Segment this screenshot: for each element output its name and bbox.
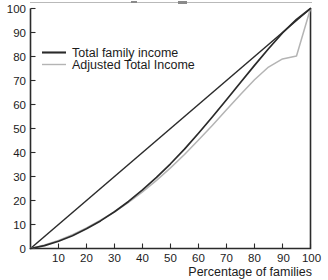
y-tick-label: 90	[13, 27, 26, 39]
x-tick-label: 80	[248, 252, 261, 264]
x-tick-label: 90	[277, 252, 290, 264]
top-crop-smudge-left	[131, 1, 137, 3]
x-tick-label: 40	[136, 252, 149, 264]
x-tick-label: 10	[52, 252, 65, 264]
y-tick-label: 10	[13, 219, 26, 231]
legend-label-adjusted-total-income: Adjusted Total Income	[72, 58, 195, 72]
y-tick-label: 40	[13, 147, 26, 159]
y-axis-tick-labels: 0 10 20 30 40 50 60 70 80 90 100	[7, 3, 26, 255]
y-tick-label: 80	[13, 51, 26, 63]
top-crop-smudge-right	[178, 1, 187, 4]
y-tick-label: 20	[13, 195, 26, 207]
y-tick-label: 60	[13, 99, 26, 111]
x-tick-label: 50	[164, 252, 177, 264]
x-tick-label: 70	[220, 252, 233, 264]
x-tick-label: 60	[192, 252, 205, 264]
y-tick-label: 50	[13, 123, 26, 135]
series-group	[31, 9, 311, 249]
y-tick-label: 100	[7, 3, 26, 15]
x-axis-title: Percentage of families	[188, 265, 312, 279]
x-tick-label: 100	[302, 252, 321, 264]
chart-canvas: 0 10 20 30 40 50 60 70 80 90 100	[0, 0, 328, 280]
x-tick-label: 30	[108, 252, 121, 264]
y-tick-label: 0	[20, 243, 26, 255]
y-tick-label: 30	[13, 171, 26, 183]
series-line-equality	[31, 9, 311, 249]
legend: Total family income Adjusted Total Incom…	[42, 46, 195, 72]
x-tick-label: 20	[80, 252, 93, 264]
y-tick-label: 70	[13, 75, 26, 87]
lorenz-curve-chart: 0 10 20 30 40 50 60 70 80 90 100	[0, 0, 328, 280]
x-axis-tick-labels: 10 20 30 40 50 60 70 80 90 100	[52, 252, 321, 264]
